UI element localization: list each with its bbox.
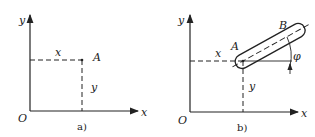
point-b-label: B bbox=[278, 19, 287, 32]
point-a-label: A bbox=[230, 40, 239, 53]
x-axis-label: x bbox=[301, 107, 308, 120]
figure: y x O x y A a) y x O x y A B φ b) bbox=[0, 0, 315, 137]
x-coord-label: x bbox=[55, 46, 62, 59]
angle-label: φ bbox=[293, 50, 301, 63]
panel-a: y x O x y A a) bbox=[18, 14, 148, 132]
y-axis-label: y bbox=[177, 14, 185, 27]
point-a bbox=[81, 59, 84, 62]
caption-b: b) bbox=[237, 122, 247, 133]
x-axis-label: x bbox=[141, 106, 148, 119]
origin-label: O bbox=[18, 112, 27, 125]
rigid-body bbox=[229, 18, 313, 73]
y-coord-label: y bbox=[248, 80, 256, 93]
x-coord-label: x bbox=[215, 47, 222, 60]
origin-label: O bbox=[178, 114, 187, 127]
y-coord-label: y bbox=[90, 81, 98, 94]
point-a-label: A bbox=[92, 51, 101, 64]
angle-arc bbox=[287, 37, 291, 66]
caption-a: a) bbox=[77, 121, 87, 132]
point-a bbox=[242, 60, 245, 63]
panel-b: y x O x y A B φ b) bbox=[177, 14, 313, 133]
y-axis-label: y bbox=[18, 14, 26, 27]
